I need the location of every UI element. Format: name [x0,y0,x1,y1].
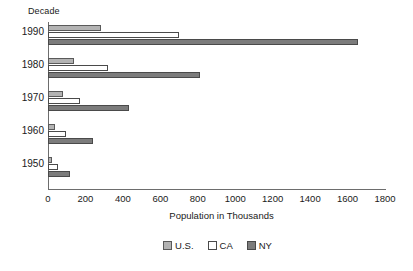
bar-ny-1950 [48,171,70,177]
bar-ca-1950 [48,164,58,170]
legend-label-ca: CA [220,240,233,251]
legend-label-ny: NY [259,240,272,251]
y-tick-label: 1950 [2,158,44,169]
y-axis-tick-labels: 1990 1980 1970 1960 1950 [0,22,44,189]
bar-ca-1960 [48,131,66,137]
bar-ca-1990 [48,32,179,38]
x-tick-label: 1200 [262,193,283,204]
legend-item-us: U.S. [163,240,193,251]
bar-us-1960 [48,124,55,130]
x-tick-label: 800 [190,193,206,204]
legend-swatch-icon-us [163,241,172,250]
bar-us-1990 [48,25,101,31]
x-axis-tick-labels: 020040060080010001200140016001800 [48,193,386,207]
y-axis-title: Decade [28,6,60,16]
legend-label-us: U.S. [175,240,193,251]
plot-area [48,22,385,189]
bar-ca-1970 [48,98,80,104]
bar-group-1970 [48,91,385,112]
bar-ny-1990 [48,39,358,45]
chart-legend: U.S. CA NY [0,240,413,251]
x-tick-label: 400 [115,193,131,204]
bar-group-1960 [48,124,385,145]
bar-group-1950 [48,157,385,178]
x-axis-title: Population in Thousands [0,210,413,221]
legend-swatch-icon-ca [208,241,217,250]
y-tick-label: 1990 [2,26,44,37]
bar-ny-1980 [48,72,200,78]
x-tick-label: 200 [78,193,94,204]
bar-ny-1960 [48,138,93,144]
legend-item-ca: CA [208,240,233,251]
x-tick-label: 0 [45,193,50,204]
bar-group-1990 [48,25,385,46]
x-axis-line [48,189,386,190]
x-tick-label: 1600 [337,193,358,204]
bar-us-1980 [48,58,74,64]
x-tick-label: 600 [152,193,168,204]
legend-item-ny: NY [247,240,272,251]
x-tick-label: 1800 [374,193,395,204]
y-tick-label: 1970 [2,92,44,103]
legend-swatch-icon-ny [247,241,256,250]
bar-us-1970 [48,91,63,97]
y-tick-label: 1980 [2,59,44,70]
bar-chart: Decade 1990 1980 1970 1960 1950 [0,0,413,271]
bar-ny-1970 [48,105,129,111]
bar-ca-1980 [48,65,108,71]
x-tick-label: 1400 [300,193,321,204]
bar-group-1980 [48,58,385,79]
x-tick-label: 1000 [225,193,246,204]
y-tick-label: 1960 [2,125,44,136]
bar-us-1950 [48,157,52,163]
